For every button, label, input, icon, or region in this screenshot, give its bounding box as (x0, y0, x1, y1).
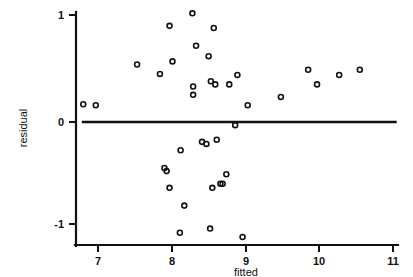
data-point (227, 82, 232, 87)
data-point (337, 72, 342, 77)
data-point (235, 72, 240, 77)
x-tick-label-10: 10 (313, 255, 325, 267)
plot-canvas: 1 0 -1 7 8 9 10 11 fitted residual (0, 0, 413, 277)
data-point (357, 67, 362, 72)
data-point (164, 169, 169, 174)
y-axis-title: residual (17, 109, 29, 148)
data-points-layer (81, 11, 363, 240)
y-tick-label-1: 1 (58, 9, 64, 21)
data-point (178, 148, 183, 153)
data-point (167, 23, 172, 28)
data-point (93, 103, 98, 108)
data-point (194, 43, 199, 48)
data-point (204, 141, 209, 146)
x-tick-label-11: 11 (387, 255, 399, 267)
data-point (182, 203, 187, 208)
data-point (191, 92, 196, 97)
data-point (315, 82, 320, 87)
data-point (135, 62, 140, 67)
data-point (170, 59, 175, 64)
data-point (306, 67, 311, 72)
data-point (213, 82, 218, 87)
y-tick-label-neg1: -1 (54, 218, 64, 230)
data-point (245, 103, 250, 108)
residual-vs-fitted-plot: 1 0 -1 7 8 9 10 11 fitted residual (0, 0, 413, 277)
data-point (81, 102, 86, 107)
x-axis-title: fitted (234, 266, 258, 277)
data-point (206, 54, 211, 59)
data-point (210, 185, 215, 190)
x-tick-label-7: 7 (95, 255, 101, 267)
data-point (157, 71, 162, 76)
data-point (208, 226, 213, 231)
data-point (177, 230, 182, 235)
data-point (190, 11, 195, 16)
data-point (211, 25, 216, 30)
data-point (191, 84, 196, 89)
data-point (278, 94, 283, 99)
data-point (240, 234, 245, 239)
x-tick-label-8: 8 (169, 255, 175, 267)
data-point (233, 123, 238, 128)
data-point (224, 172, 229, 177)
data-point (167, 185, 172, 190)
y-tick-label-0: 0 (58, 116, 64, 128)
data-point (214, 137, 219, 142)
